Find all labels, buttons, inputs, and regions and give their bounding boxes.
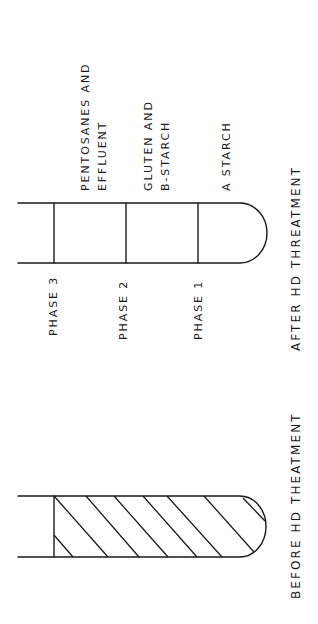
phase-3-content-line1: PENTOSANES AND <box>80 63 92 191</box>
hatch-pattern <box>54 496 265 557</box>
after-tube <box>18 203 267 263</box>
phase-3-label: PHASE 3 <box>48 276 60 336</box>
phase-3-content-line2: EFFLUENT <box>97 121 109 191</box>
before-tube-outline <box>18 496 266 557</box>
after-tube-outline <box>18 203 267 263</box>
phase-2-label: PHASE 2 <box>118 280 130 340</box>
before-tube <box>18 496 266 557</box>
phase-2-content-line1: GLUTEN AND <box>143 100 155 191</box>
before-caption: BEFORE HD THEATMENT <box>290 412 302 599</box>
phase-1-label: PHASE 1 <box>193 280 205 340</box>
phase-2-content-line2: B-STARCH <box>160 121 172 191</box>
phase-1-content-line1: A STARCH <box>221 121 233 191</box>
after-caption: AFTER HD THREATMENT <box>290 166 302 351</box>
